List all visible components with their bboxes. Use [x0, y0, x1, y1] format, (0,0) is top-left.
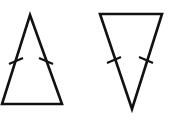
- geometry-figure: Two isosceles triangles with congruence …: [0, 0, 186, 127]
